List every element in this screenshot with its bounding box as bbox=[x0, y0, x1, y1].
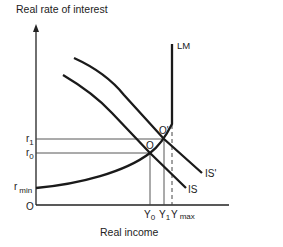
is-prime-curve bbox=[74, 58, 202, 173]
ymax-label: Ymax bbox=[171, 209, 195, 221]
point-o-label: O bbox=[146, 140, 154, 151]
point-o-prime-label: O' bbox=[159, 125, 169, 136]
y-axis-arrow-icon bbox=[33, 24, 39, 32]
r1-label: r1 bbox=[26, 133, 34, 147]
lm-label: LM bbox=[177, 40, 190, 51]
x-axis-label: Real income bbox=[100, 226, 159, 238]
lm-curve bbox=[36, 44, 172, 188]
is-label: IS bbox=[188, 184, 198, 195]
is-prime-label: IS' bbox=[205, 168, 216, 179]
rmin-label: rmin bbox=[14, 181, 32, 195]
y0-label: Y0 bbox=[144, 209, 156, 222]
r0-label: r0 bbox=[26, 147, 34, 161]
islm-diagram: Real rate of interest Real income O LM I… bbox=[0, 0, 283, 247]
origin-label: O bbox=[26, 201, 34, 212]
y-axis-label: Real rate of interest bbox=[16, 3, 108, 15]
y1-label: Y1 bbox=[159, 209, 171, 222]
